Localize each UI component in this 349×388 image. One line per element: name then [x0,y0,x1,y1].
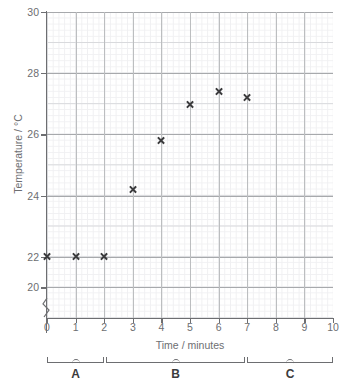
y-tick-28 [41,73,47,74]
gridline-x-1 [76,12,77,318]
x-tick-label-10: 10 [321,322,345,333]
bracket-a-label: A [47,367,104,381]
gridline-x-3 [133,12,134,318]
x-tick-label-3: 3 [121,322,145,333]
x-tick-label-2: 2 [92,322,116,333]
x-tick-label-1: 1 [64,322,88,333]
data-point-3 [128,185,137,194]
stage-brackets: A B C [0,356,349,388]
x-axis-title: Time / minutes [47,339,333,351]
gridline-x-7 [247,12,248,318]
y-tick-26 [41,134,47,135]
temperature-vs-time-chart: 30 28 26 24 22 20 0 1 2 3 4 5 6 7 8 9 10… [0,0,349,388]
bracket-c: C [247,356,333,365]
y-tick-label-30: 30 [0,7,39,17]
bracket-b-nub [172,359,180,364]
y-tick-30 [41,12,47,13]
bracket-c-right-cap [332,357,333,363]
bracket-a-right-cap [103,357,104,363]
bracket-b-label: B [106,367,245,381]
y-tick-label-22: 22 [0,252,39,262]
gridline-x-2 [104,12,105,318]
y-axis-break-icon [40,297,52,319]
bracket-a: A [47,356,104,365]
data-point-7 [243,93,252,102]
bracket-c-label: C [247,367,333,381]
y-axis-title: Temperature / °C [12,74,24,234]
y-tick-24 [41,196,47,197]
data-point-6 [214,87,223,96]
bracket-a-nub [72,359,80,364]
gridline-x-6 [219,12,220,318]
gridline-x-9 [304,12,305,318]
y-axis-line [46,11,47,333]
bracket-b-right-cap [244,357,245,363]
gridline-x-5 [190,12,191,318]
data-point-2 [100,252,109,261]
y-tick-20 [41,287,47,288]
bracket-b: B [106,356,245,365]
y-tick-label-20: 20 [0,282,39,292]
x-tick-label-7: 7 [235,322,259,333]
data-point-5 [186,100,195,109]
data-point-1 [71,252,80,261]
x-tick-label-4: 4 [149,322,173,333]
gridline-x-8 [276,12,277,318]
data-point-4 [157,136,166,145]
x-tick-label-6: 6 [207,322,231,333]
x-tick-label-9: 9 [292,322,316,333]
x-tick-label-8: 8 [264,322,288,333]
x-tick-label-5: 5 [178,322,202,333]
x-tick-label-0: 0 [35,322,59,333]
gridline-x-4 [161,12,162,318]
data-point-0 [43,252,52,261]
bracket-c-nub [286,359,294,364]
